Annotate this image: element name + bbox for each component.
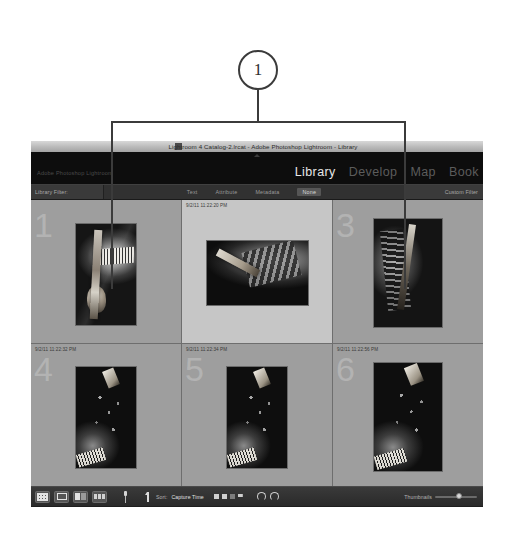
cell-timestamp-2: 9/2/11 11:22:20 PM xyxy=(186,203,227,208)
panel-toggle-arrow-icon[interactable] xyxy=(254,154,260,157)
grid-icon xyxy=(37,493,48,501)
grid-cell-2[interactable]: 2 9/2/11 11:22:20 PM xyxy=(182,200,333,343)
loupe-view-button[interactable] xyxy=(54,491,69,503)
filter-option-text[interactable]: Text xyxy=(187,189,198,195)
thumbnail-1[interactable] xyxy=(75,223,137,326)
grid-view-area: 1 9/2/11 11:22:08 PM 2 9/2/11 11:22:20 P… xyxy=(31,200,483,486)
callout-badge-1: 1 xyxy=(238,50,278,90)
thumbnail-6[interactable] xyxy=(373,362,443,472)
grid-cell-6[interactable]: 6 9/2/11 11:22:56 PM xyxy=(333,344,483,487)
cell-timestamp-4: 9/2/11 11:22:32 PM xyxy=(35,347,76,352)
module-library[interactable]: Library xyxy=(295,165,336,179)
cell-index-6: 6 xyxy=(336,352,355,386)
flag-icon[interactable] xyxy=(238,494,243,500)
thumbnail-3[interactable] xyxy=(373,218,443,328)
photo-guitar-on-amp xyxy=(207,241,308,305)
piano-keys-detail xyxy=(96,247,135,266)
module-picker: Library Develop Map Book xyxy=(295,165,481,179)
rating-square-icon[interactable] xyxy=(230,494,235,499)
custom-filter-selector[interactable]: Custom Filter xyxy=(405,185,483,199)
lightroom-window: Lightroom 4 Catalog-2.lrcat - Adobe Phot… xyxy=(31,141,483,507)
photo-dark-keyboard-scene xyxy=(374,363,442,471)
rotate-left-icon[interactable] xyxy=(257,492,266,501)
compare-icon xyxy=(75,493,86,500)
sort-arrow-icon[interactable] xyxy=(144,491,152,503)
thumbnail-slider-label: Thumbnails xyxy=(404,494,432,500)
thumbnail-4[interactable] xyxy=(75,366,137,469)
grid-cell-4[interactable]: 4 9/2/11 11:22:32 PM xyxy=(31,344,182,487)
filter-option-attribute[interactable]: Attribute xyxy=(216,189,238,195)
photo-guitar-and-piano xyxy=(76,224,136,325)
survey-icon xyxy=(94,493,105,500)
photo-dark-keyboard-scene xyxy=(76,367,136,468)
survey-view-button[interactable] xyxy=(92,491,107,503)
slider-track[interactable] xyxy=(435,496,477,498)
thumbnail-size-slider[interactable]: Thumbnails xyxy=(404,494,477,500)
sort-value[interactable]: Capture Time xyxy=(171,494,203,500)
grid-row: 1 9/2/11 11:22:08 PM 2 9/2/11 11:22:20 P… xyxy=(31,200,483,344)
photo-guitar-neck-closeup xyxy=(374,219,442,327)
library-filter-bar: Library Filter: Text Attribute Metadata … xyxy=(31,184,483,200)
spray-can-icon[interactable] xyxy=(121,491,130,503)
callout-bracket-top xyxy=(111,121,406,123)
thumbnail-2[interactable] xyxy=(206,240,309,306)
compare-view-button[interactable] xyxy=(73,491,88,503)
grid-cell-3[interactable]: 3 9/2/11 11:22:26 PM xyxy=(333,200,483,343)
identity-plate[interactable]: Adobe Photoshop Lightroom xyxy=(37,170,113,176)
cell-timestamp-5: 9/2/11 11:22:34 PM xyxy=(186,347,227,352)
callout-stem xyxy=(257,90,259,121)
thumbnail-5[interactable] xyxy=(226,366,288,469)
filmstrip-edge xyxy=(31,506,483,507)
rating-square-icon[interactable] xyxy=(214,494,219,499)
cell-index-1: 1 xyxy=(34,208,53,242)
filter-option-none[interactable]: None xyxy=(297,188,321,196)
module-develop[interactable]: Develop xyxy=(349,165,398,179)
module-book[interactable]: Book xyxy=(449,165,479,179)
rating-square-icon[interactable] xyxy=(222,494,227,499)
library-toolbar: Sort: Capture Time Thumbnails xyxy=(31,486,483,506)
module-bar: Adobe Photoshop Lightroom Library Develo… xyxy=(31,152,483,184)
cell-index-4: 4 xyxy=(34,352,53,386)
cell-index-3: 3 xyxy=(336,208,355,242)
loupe-icon xyxy=(57,493,67,500)
module-map[interactable]: Map xyxy=(410,165,436,179)
cell-index-5: 5 xyxy=(185,352,204,386)
grid-cell-1[interactable]: 1 9/2/11 11:22:08 PM xyxy=(31,200,182,343)
slider-knob[interactable] xyxy=(456,493,462,499)
window-titlebar: Lightroom 4 Catalog-2.lrcat - Adobe Phot… xyxy=(31,141,483,152)
photo-dark-keyboard-scene xyxy=(227,367,287,468)
filter-options: Text Attribute Metadata None xyxy=(104,185,405,199)
filter-option-metadata[interactable]: Metadata xyxy=(255,189,279,195)
cell-timestamp-6: 9/2/11 11:22:56 PM xyxy=(337,347,378,352)
sort-label: Sort: xyxy=(156,494,167,500)
grid-row: 4 9/2/11 11:22:32 PM 5 9/2/11 11:22:34 P… xyxy=(31,344,483,487)
rotate-right-icon[interactable] xyxy=(270,492,279,501)
rating-controls xyxy=(214,494,243,500)
library-filter-label[interactable]: Library Filter: xyxy=(31,185,104,199)
window-title: Lightroom 4 Catalog-2.lrcat - Adobe Phot… xyxy=(168,143,357,150)
grid-cell-5[interactable]: 5 9/2/11 11:22:34 PM xyxy=(182,344,333,487)
grid-view-button[interactable] xyxy=(35,491,50,503)
